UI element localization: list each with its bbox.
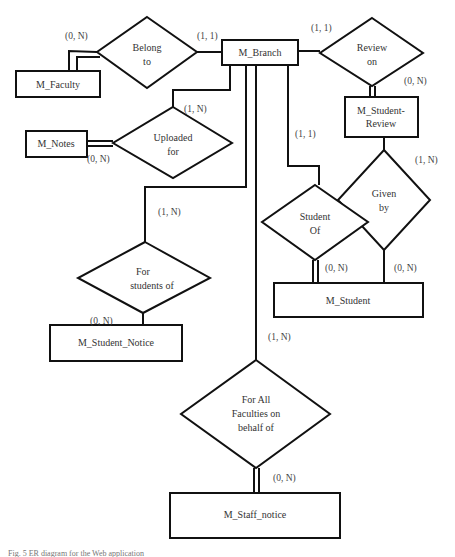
line-branch-studentof: [288, 65, 319, 185]
line-branch-uploaded: [173, 65, 230, 107]
card-studentof-branch: (1, 1): [295, 129, 316, 140]
entity-label-staff-notice: M_Staff_notice: [224, 509, 287, 520]
figure-caption: Fig. 5 ER diagram for the Web applicatio…: [8, 549, 144, 557]
rel-label-review-2: on: [367, 56, 377, 67]
rel-label-belong-2: to: [143, 56, 151, 67]
entity-m-student-review: [345, 97, 418, 137]
rel-label-forstudents-1: For: [136, 266, 151, 277]
entity-label-branch: M_Branch: [239, 47, 282, 58]
card-belong-faculty: (0, N): [65, 31, 88, 42]
entity-label-notes: M_Notes: [37, 138, 74, 149]
entity-label-student-review-2: Review: [366, 118, 397, 129]
card-forstudents-branch: (1, N): [158, 207, 181, 218]
entity-label-faculty: M_Faculty: [36, 79, 80, 90]
rel-label-uploaded-2: for: [167, 146, 179, 157]
card-givenby-sr: (1, N): [415, 155, 438, 166]
rel-label-studentof-1: Student: [300, 211, 331, 222]
card-forall-branch: (1, N): [268, 332, 291, 343]
rel-label-review-1: Review: [357, 42, 388, 53]
card-studentof-student: (0, N): [325, 263, 348, 274]
line-belong-faculty-b: [77, 57, 100, 71]
rel-label-forall-1: For All: [242, 394, 271, 405]
relationship-for-students-of: [78, 242, 210, 313]
card-review-branch: (1, 1): [311, 23, 332, 34]
entity-label-student-notice: M_Student_Notice: [78, 337, 155, 348]
er-diagram-canvas: M_Branch M_Faculty M_Student- Review M_N…: [0, 0, 455, 557]
card-review-sr: (0, N): [404, 76, 427, 87]
card-givenby-student: (0, N): [394, 263, 417, 274]
entity-label-student-review-1: M_Student-: [357, 105, 405, 116]
card-forall-staff: (0, N): [273, 473, 296, 484]
card-belong-branch: (1, 1): [197, 31, 218, 42]
rel-label-uploaded-1: Uploaded: [154, 132, 193, 143]
entity-label-student: M_Student: [326, 295, 371, 306]
rel-label-forstudents-2: students of: [130, 280, 174, 291]
card-uploaded-branch: (1, N): [184, 104, 207, 115]
rel-label-forall-2: Faculties on: [232, 408, 281, 419]
card-forstudents-notice: (0, N): [90, 316, 113, 327]
relationship-given-by: [338, 150, 430, 250]
line-belong-faculty-a: [69, 51, 97, 71]
rel-label-given-1: Given: [372, 188, 396, 199]
rel-label-forall-3: behalf of: [238, 422, 274, 433]
rel-label-belong-1: Belong: [133, 42, 162, 53]
rel-label-studentof-2: Of: [310, 225, 321, 236]
card-uploaded-notes: (0, N): [87, 154, 110, 165]
rel-label-given-2: by: [379, 202, 389, 213]
